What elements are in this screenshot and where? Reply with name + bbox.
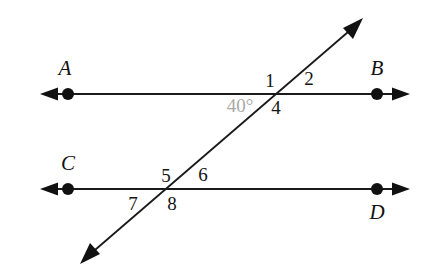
line-ab: [40, 88, 410, 101]
point-a-dot: [62, 88, 74, 100]
line-cd-arrow-left-icon: [40, 183, 58, 196]
line-cd-arrow-right-icon: [392, 183, 410, 196]
line-cd: [40, 183, 410, 196]
line-transversal-arrow-down-icon: [80, 243, 100, 264]
geometry-canvas: [0, 0, 433, 279]
point-b-dot: [371, 88, 383, 100]
line-transversal-segment: [88, 26, 355, 256]
line-ab-arrow-left-icon: [40, 88, 58, 101]
line-transversal-arrow-up-icon: [343, 18, 363, 39]
point-c-dot: [62, 183, 74, 195]
line-ab-arrow-right-icon: [392, 88, 410, 101]
point-d-dot: [371, 183, 383, 195]
geometry-diagram: A B C D 1 2 4 5 6 7 8 40°: [0, 0, 433, 279]
line-transversal: [80, 18, 363, 264]
